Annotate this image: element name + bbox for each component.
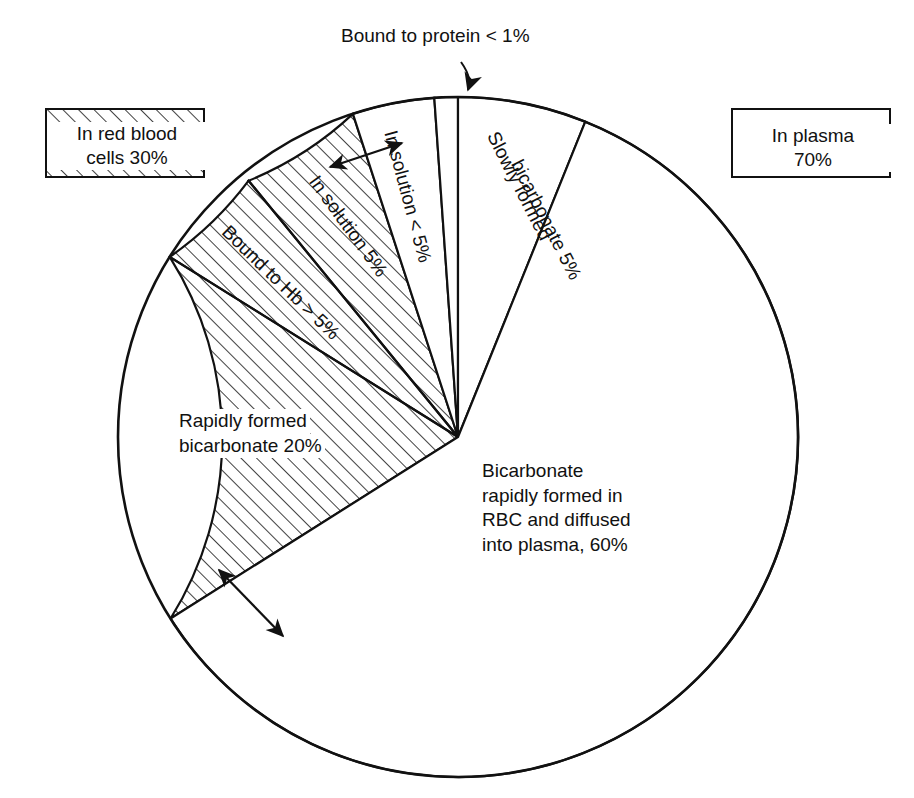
legend-in-plasma[interactable]: In plasma 70% — [731, 108, 891, 178]
label-rapidly-formed-line-1: Rapidly formed — [176, 409, 310, 434]
label-plasma60-line-1: Bicarbonate — [482, 459, 631, 484]
legend-right-label: In plasma 70% — [733, 124, 893, 172]
legend-right-line-2: 70% — [733, 148, 893, 172]
legend-right-line-1: In plasma — [733, 124, 893, 148]
label-plasma60-line-4: into plasma, 60% — [482, 533, 631, 558]
label-rapidly-formed-bicarbonate: Rapidly formed bicarbonate 20% — [176, 409, 325, 458]
label-plasma60-line-3: RBC and diffused — [482, 508, 631, 533]
legend-left-line-1: In red blood — [47, 122, 207, 146]
label-rapidly-formed-line-2: bicarbonate 20% — [176, 434, 325, 459]
figure-canvas: In red blood cells 30% In plasma 70% Bou… — [0, 0, 914, 798]
callout-bound-to-protein: Bound to protein < 1% — [341, 25, 530, 47]
label-plasma60-line-2: rapidly formed in — [482, 484, 631, 509]
legend-left-line-2: cells 30% — [47, 146, 207, 170]
legend-in-red-blood-cells[interactable]: In red blood cells 30% — [45, 108, 205, 178]
legend-left-label: In red blood cells 30% — [47, 122, 207, 170]
label-bicarbonate-diffused-plasma: Bicarbonate rapidly formed in RBC and di… — [482, 459, 631, 558]
protein-leader-line — [461, 62, 469, 90]
